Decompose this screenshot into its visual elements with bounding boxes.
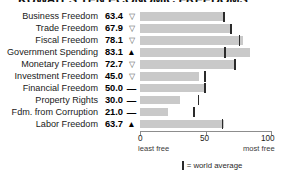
freedom-label: Property Rights — [0, 95, 98, 107]
score-bar — [140, 84, 206, 93]
world-average-marker — [204, 71, 206, 81]
freedom-row: Business Freedom63.4▽ — [0, 11, 282, 23]
world-average-marker — [230, 24, 232, 34]
world-average-marker — [234, 59, 236, 69]
score-bar — [140, 36, 243, 45]
legend-label: = world average — [187, 161, 243, 170]
x-tick-label-0: 0 — [138, 134, 143, 143]
bar-track — [140, 48, 272, 57]
freedom-row: Monetary Freedom72.7▽ — [0, 59, 282, 71]
score-bar — [140, 48, 250, 57]
trend-down-icon: ▽ — [126, 71, 137, 83]
trend-up-icon: ▲ — [126, 47, 137, 59]
freedom-score-value: 83.1 — [100, 47, 123, 59]
score-bar — [140, 72, 199, 81]
world-average-marker — [198, 95, 200, 105]
bar-track — [140, 36, 272, 45]
economic-freedoms-chart: KUWAIT'S TEN ECONOMIC FREEDOMS Business … — [0, 0, 282, 171]
world-average-marker — [223, 12, 225, 22]
bar-track — [140, 120, 272, 129]
freedom-label: Labor Freedom — [0, 119, 98, 131]
x-tick-label-50: 50 — [200, 134, 209, 143]
bar-track — [140, 108, 272, 117]
freedom-row: Financial Freedom50.0— — [0, 83, 282, 95]
freedom-score-value: 63.7 — [100, 119, 123, 131]
freedom-score-value: 63.4 — [100, 11, 123, 23]
freedom-score-value: 30.0 — [100, 95, 123, 107]
world-average-marker — [204, 83, 206, 93]
freedom-row: Labor Freedom63.7▲ — [0, 119, 282, 131]
freedom-label: Government Spending — [0, 47, 98, 59]
score-bar — [140, 12, 224, 21]
trend-up-icon: ▲ — [126, 119, 137, 131]
freedom-row: Property Rights30.0— — [0, 95, 282, 107]
bar-track — [140, 84, 272, 93]
freedom-row: Fdm. from Corruption21.0— — [0, 107, 282, 119]
score-bar — [140, 108, 168, 117]
axis-note-most-free: most free — [243, 144, 275, 153]
x-tick-label-100: 100 — [261, 134, 275, 143]
freedom-score-value: 50.0 — [100, 83, 123, 95]
freedom-label: Trade Freedom — [0, 23, 98, 35]
bar-track — [140, 96, 272, 105]
freedom-label: Monetary Freedom — [0, 59, 98, 71]
bar-track — [140, 72, 272, 81]
freedom-score-value: 67.9 — [100, 23, 123, 35]
trend-dash-icon: — — [126, 83, 137, 95]
freedom-score-value: 45.0 — [100, 71, 123, 83]
trend-down-icon: ▽ — [126, 23, 137, 35]
trend-down-icon: ▽ — [126, 11, 137, 23]
freedom-rows: Business Freedom63.4▽Trade Freedom67.9▽F… — [0, 11, 282, 131]
freedom-score-value: 78.1 — [100, 35, 123, 47]
freedom-label: Investment Freedom — [0, 71, 98, 83]
world-average-marker — [239, 35, 241, 45]
trend-dash-icon: — — [126, 95, 137, 107]
world-average-marker — [224, 47, 226, 57]
score-bar — [140, 60, 236, 69]
world-average-marker — [222, 119, 224, 129]
freedom-score-value: 21.0 — [100, 107, 123, 119]
world-average-marker — [193, 107, 195, 117]
trend-down-icon: ▽ — [126, 59, 137, 71]
axis-note-least-free: least free — [138, 144, 169, 153]
freedom-row: Trade Freedom67.9▽ — [0, 23, 282, 35]
score-bar — [140, 24, 230, 33]
bar-track — [140, 60, 272, 69]
legend: = world average — [182, 155, 242, 167]
trend-dash-icon: — — [126, 107, 137, 119]
freedom-label: Fdm. from Corruption — [0, 107, 98, 119]
bar-track — [140, 12, 272, 21]
trend-down-icon: ▽ — [126, 35, 137, 47]
score-bar — [140, 120, 224, 129]
score-bar — [140, 96, 180, 105]
freedom-label: Financial Freedom — [0, 83, 98, 95]
freedom-label: Business Freedom — [0, 11, 98, 23]
freedom-row: Government Spending83.1▲ — [0, 47, 282, 59]
freedom-label: Fiscal Freedom — [0, 35, 98, 47]
freedom-row: Investment Freedom45.0▽ — [0, 71, 282, 83]
freedom-score-value: 72.7 — [100, 59, 123, 71]
page-title: KUWAIT'S TEN ECONOMIC FREEDOMS — [18, 0, 268, 2]
bar-track — [140, 24, 272, 33]
world-average-marker-icon — [182, 161, 184, 170]
freedom-row: Fiscal Freedom78.1▽ — [0, 35, 282, 47]
